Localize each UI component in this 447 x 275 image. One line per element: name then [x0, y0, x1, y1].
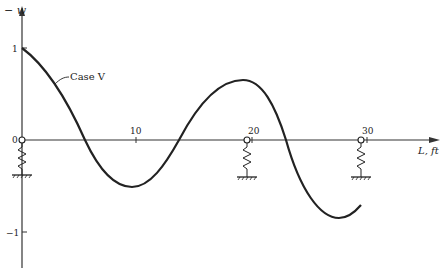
deflection-diagram: − w L, ft 1 0 −1 10 20 30 Case V — [0, 0, 447, 275]
y-tick-label-1: 1 — [12, 44, 18, 54]
spring-support-30 — [351, 137, 371, 180]
case-v-label: Case V — [70, 71, 106, 82]
x-tick-label-30: 30 — [362, 126, 374, 136]
spring-support-20 — [237, 137, 257, 180]
x-tick-label-20: 20 — [248, 126, 260, 136]
x-axis-label: L, ft — [417, 145, 440, 156]
x-axis-arrow-icon — [429, 137, 440, 143]
y-axis-label: − w — [4, 4, 27, 17]
y-tick-label-neg1: −1 — [6, 228, 19, 238]
y-tick-label-0: 0 — [12, 135, 18, 145]
x-tick-label-10: 10 — [130, 126, 142, 136]
case-v-leader-line — [55, 77, 69, 84]
